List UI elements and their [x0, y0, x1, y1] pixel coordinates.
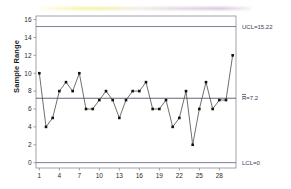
data-point-marker — [51, 117, 54, 120]
data-point-marker — [58, 90, 61, 93]
data-point-marker — [165, 99, 168, 102]
y-tick-label: 0 — [28, 159, 32, 166]
data-point-marker — [178, 117, 181, 120]
x-tick-label: 16 — [136, 172, 144, 179]
data-point-marker — [45, 126, 48, 129]
data-point-marker — [158, 108, 161, 111]
x-tick-label: 13 — [116, 172, 124, 179]
x-tick-label: 1 — [38, 172, 42, 179]
y-tick-label: 6 — [28, 105, 32, 112]
x-tick-label: 28 — [216, 172, 224, 179]
data-point-marker — [91, 108, 94, 111]
data-point-marker — [98, 99, 101, 102]
control-limit-label-ucl: UCL=15.22 — [242, 24, 273, 30]
data-point-marker — [71, 90, 74, 93]
x-tick-label: 10 — [96, 172, 104, 179]
data-point-marker — [205, 81, 208, 84]
data-point-marker — [185, 90, 188, 93]
data-point-marker — [231, 54, 234, 57]
y-tick-label: 16 — [24, 16, 32, 23]
y-tick-label: 14 — [24, 34, 32, 41]
data-point-marker — [151, 108, 154, 111]
plot-area: 024681012141614710131619222528UCL=15.22R… — [0, 0, 291, 189]
data-point-marker — [111, 99, 114, 102]
series-line — [39, 55, 232, 144]
data-point-marker — [138, 90, 141, 93]
x-tick-label: 22 — [176, 172, 184, 179]
y-tick-label: 10 — [24, 70, 32, 77]
x-tick-label: 7 — [78, 172, 82, 179]
plot-frame — [36, 16, 236, 168]
data-point-marker — [218, 99, 221, 102]
data-point-marker — [191, 143, 194, 146]
data-point-marker — [38, 72, 41, 75]
data-point-marker — [78, 72, 81, 75]
data-point-marker — [225, 99, 228, 102]
data-point-marker — [118, 117, 121, 120]
control-limit-label-lcl: LCL=0 — [242, 160, 261, 166]
data-point-marker — [65, 81, 68, 84]
y-tick-label: 2 — [28, 141, 32, 148]
data-point-marker — [211, 108, 214, 111]
data-point-marker — [145, 81, 148, 84]
data-point-marker — [171, 126, 174, 129]
y-tick-label: 8 — [28, 87, 32, 94]
y-tick-label: 4 — [28, 123, 32, 130]
data-point-marker — [105, 90, 108, 93]
y-tick-label: 12 — [24, 52, 32, 59]
data-point-marker — [85, 108, 88, 111]
control-limit-label-cl: R̅=7.2 — [242, 95, 259, 101]
x-tick-label: 19 — [156, 172, 164, 179]
x-tick-label: 4 — [58, 172, 62, 179]
control-chart-figure: Sample Range 024681012141614710131619222… — [0, 0, 291, 189]
x-tick-label: 25 — [196, 172, 204, 179]
data-point-marker — [198, 108, 201, 111]
data-point-marker — [131, 90, 134, 93]
data-point-marker — [125, 99, 128, 102]
